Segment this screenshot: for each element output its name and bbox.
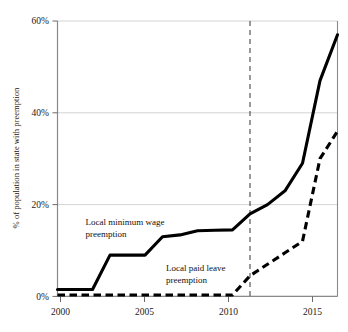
annotation-minimum-wage-line1: Local minimum wage xyxy=(86,217,165,227)
annotation-paid-leave-line2: preemption xyxy=(166,275,207,285)
x-tick-label-2000: 2000 xyxy=(51,307,70,317)
y-tick-label-60: 60% xyxy=(32,16,50,26)
annotation-paid-leave-line1: Local paid leave xyxy=(166,263,225,273)
y-tick-label-20: 20% xyxy=(32,200,50,210)
y-axis-title: % of population in state with preemption xyxy=(11,87,21,229)
y-tick-label-40: 40% xyxy=(32,108,50,118)
x-axis-ticks xyxy=(61,296,313,302)
x-tick-label-2005: 2005 xyxy=(135,307,154,317)
y-axis-ticks xyxy=(53,21,58,296)
preemption-line-chart: 60% 40% 20% 0% 2000 2005 2010 2015 % of … xyxy=(0,0,348,332)
chart-figure: 60% 40% 20% 0% 2000 2005 2010 2015 % of … xyxy=(0,0,348,332)
x-tick-label-2015: 2015 xyxy=(303,307,322,317)
x-tick-label-2010: 2010 xyxy=(219,307,238,317)
plot-background xyxy=(58,21,338,297)
y-tick-label-0: 0% xyxy=(36,292,49,302)
annotation-minimum-wage-line2: preemption xyxy=(86,229,127,239)
